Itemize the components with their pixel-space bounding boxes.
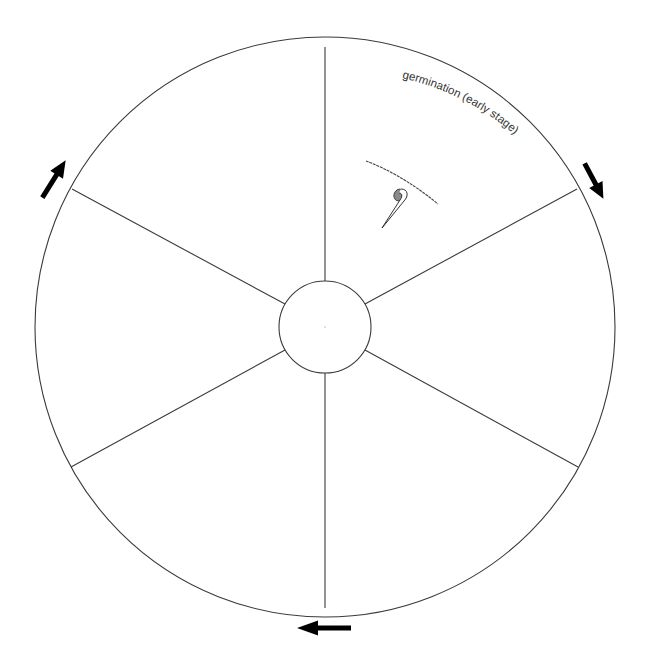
direction-arrows	[36, 156, 610, 635]
life-cycle-diagram: germination (early stage)	[0, 0, 651, 670]
center-dot	[324, 326, 326, 328]
divider-upper-left	[72, 189, 285, 304]
arrow-down-right-icon	[578, 160, 610, 202]
segment-label-text: germination (early stage)	[402, 68, 522, 136]
arrow-left-icon	[297, 621, 351, 636]
segment-label-germination: germination (early stage)	[402, 68, 522, 136]
divider-lower-left	[71, 350, 285, 467]
seedling-illustration	[366, 161, 438, 228]
cycle-wheel: germination (early stage)	[0, 0, 651, 670]
divider-lower-right	[365, 350, 578, 467]
